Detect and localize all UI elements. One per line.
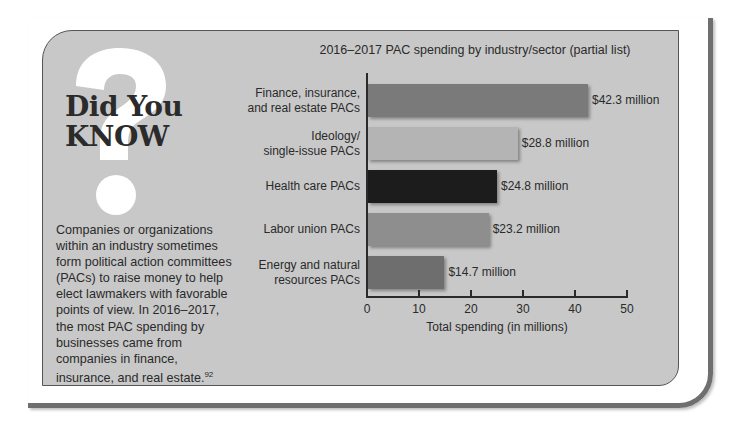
chart-title: 2016–2017 PAC spending by industry/secto… bbox=[300, 43, 650, 57]
value-label: $14.7 million bbox=[448, 265, 515, 279]
x-tick-label: 0 bbox=[352, 302, 382, 316]
x-tick-label: 20 bbox=[456, 302, 486, 316]
category-label: Ideology/single-issue PACs bbox=[200, 129, 360, 159]
value-label: $28.8 million bbox=[522, 136, 589, 150]
x-tick bbox=[366, 290, 368, 297]
y-axis bbox=[366, 73, 368, 297]
x-axis-title: Total spending (in millions) bbox=[366, 320, 628, 334]
category-label: Health care PACs bbox=[200, 179, 360, 194]
value-label: $24.8 million bbox=[501, 179, 568, 193]
x-tick bbox=[626, 290, 628, 297]
body-text: Companies or organizations within an ind… bbox=[56, 223, 232, 385]
value-label: $42.3 million bbox=[592, 93, 659, 107]
x-tick-label: 50 bbox=[612, 302, 642, 316]
did-you-know-body: Companies or organizations within an ind… bbox=[56, 222, 236, 386]
x-tick bbox=[522, 290, 524, 297]
bar bbox=[368, 256, 444, 289]
x-tick bbox=[470, 290, 472, 297]
x-axis bbox=[366, 296, 628, 298]
x-tick-label: 40 bbox=[560, 302, 590, 316]
bar bbox=[368, 213, 489, 246]
x-tick-label: 30 bbox=[508, 302, 538, 316]
heading-line-1: Did You bbox=[65, 90, 182, 123]
question-mark-dot-icon bbox=[96, 175, 136, 215]
footnote-ref: 92 bbox=[204, 370, 213, 379]
x-tick bbox=[574, 290, 576, 297]
category-label: Energy and naturalresources PACs bbox=[200, 258, 360, 288]
bar bbox=[368, 84, 588, 117]
x-tick bbox=[418, 290, 420, 297]
bar bbox=[368, 127, 518, 160]
category-label: Finance, insurance,and real estate PACs bbox=[200, 86, 360, 116]
value-label: $23.2 million bbox=[493, 222, 560, 236]
bar bbox=[368, 170, 497, 203]
x-tick-label: 10 bbox=[404, 302, 434, 316]
category-label: Labor union PACs bbox=[200, 222, 360, 237]
